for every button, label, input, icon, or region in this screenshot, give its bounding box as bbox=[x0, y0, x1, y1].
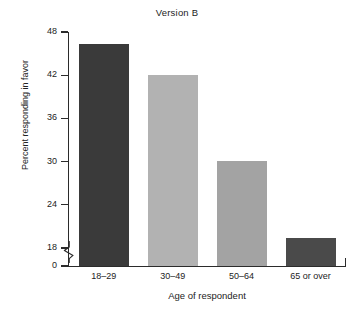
bar bbox=[217, 161, 267, 266]
x-axis-tick-label: 30–49 bbox=[138, 271, 207, 281]
bar bbox=[286, 238, 336, 266]
bar bbox=[148, 75, 198, 266]
x-axis-tick-label: 65 or over bbox=[276, 271, 345, 281]
x-axis-tick-label: 50–64 bbox=[207, 271, 276, 281]
plot-area: 4842363024180 18–2930–4950–6465 or over bbox=[0, 0, 354, 316]
bar-chart: Version B Percent responding in favor 48… bbox=[0, 0, 354, 316]
bars-group bbox=[0, 0, 354, 316]
x-axis-tick-label: 18–29 bbox=[69, 271, 138, 281]
bar bbox=[79, 44, 129, 266]
x-axis-title: Age of respondent bbox=[68, 290, 346, 301]
